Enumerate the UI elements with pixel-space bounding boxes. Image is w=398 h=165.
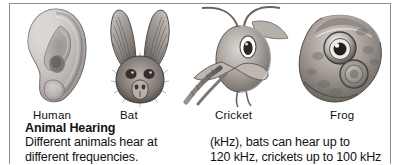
animal-hearing-figure: Human Bat Cricket Frog Animal Hearing Di… xyxy=(0,0,398,164)
frog-head-illustration xyxy=(292,4,390,108)
figure-heading: Animal Hearing xyxy=(25,121,115,136)
caption-line: Different animals hear at xyxy=(25,135,205,150)
caption-line: different frequencies. xyxy=(25,150,205,165)
caption-line: 120 kHz, crickets up to 100 kHz xyxy=(210,150,392,165)
caption-left-column: Different animals hear at different freq… xyxy=(25,135,205,164)
label-cricket: Cricket xyxy=(215,108,252,123)
cricket-head-illustration xyxy=(182,4,292,108)
label-frog: Frog xyxy=(330,108,354,123)
human-ear-illustration xyxy=(16,4,96,108)
caption-line: (kHz), bats can hear up to xyxy=(210,135,392,150)
illustration-strip xyxy=(10,4,390,108)
bat-head-illustration xyxy=(96,4,184,108)
label-bat: Bat xyxy=(120,108,138,123)
caption-right-column: (kHz), bats can hear up to 120 kHz, cric… xyxy=(210,135,392,164)
